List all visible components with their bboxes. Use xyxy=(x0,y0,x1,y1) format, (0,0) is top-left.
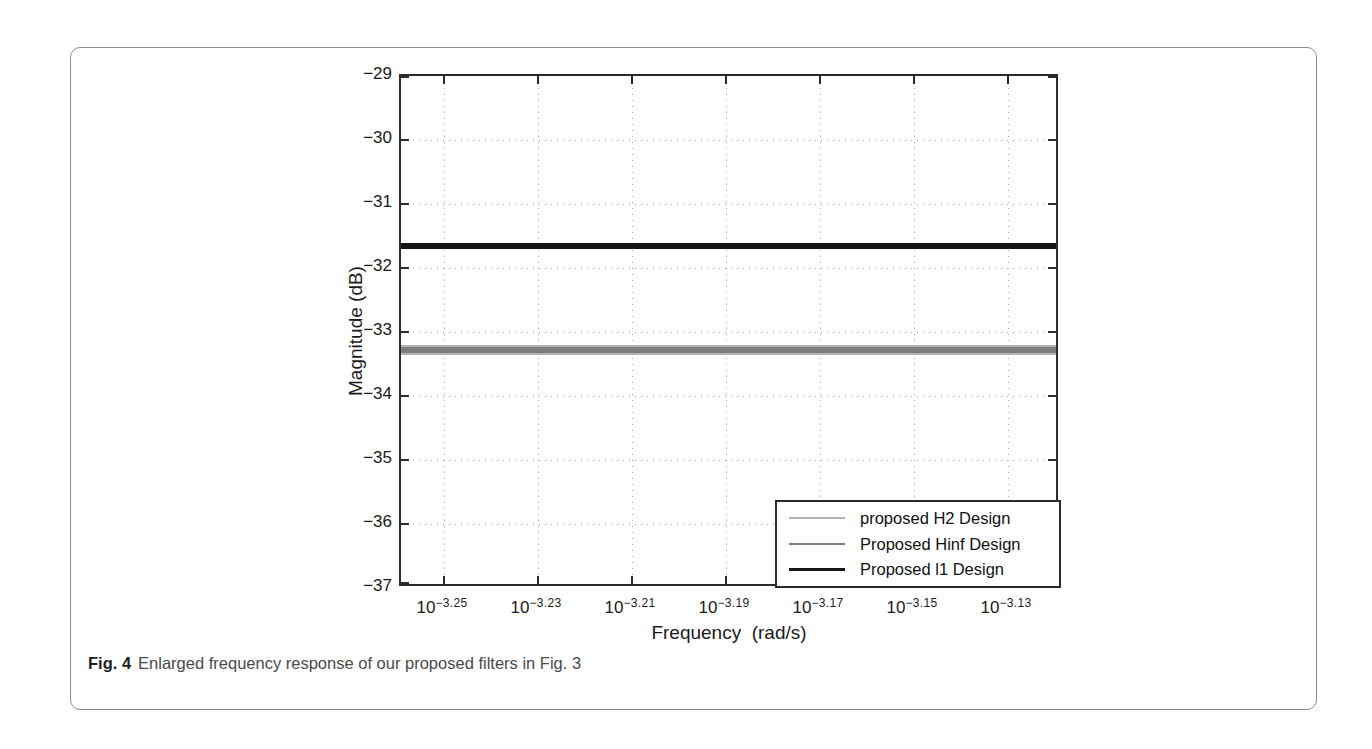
x-tick-mark xyxy=(537,576,539,584)
legend-label: Proposed Hinf Design xyxy=(860,535,1021,554)
x-tick-label: 10−3.13 xyxy=(959,596,1053,618)
legend-line-sample-hinf xyxy=(789,543,845,546)
y-tick-mark xyxy=(401,139,409,141)
x-tick-label: 10−3.23 xyxy=(489,596,583,618)
caption-figure-number: Fig. 4 xyxy=(88,654,131,672)
y-tick-mark xyxy=(1048,395,1056,397)
gridline-horizontal xyxy=(401,268,1056,269)
y-tick-label: −29 xyxy=(332,63,392,85)
y-tick-mark xyxy=(1048,267,1056,269)
y-tick-mark xyxy=(1048,139,1056,141)
y-tick-mark xyxy=(401,459,409,461)
x-axis-title: Frequency (rad/s) xyxy=(599,622,859,644)
y-tick-mark xyxy=(401,267,409,269)
x-tick-mark xyxy=(631,576,633,584)
x-tick-base: 10 xyxy=(605,598,624,617)
x-tick-exponent: −3.13 xyxy=(1000,596,1032,610)
x-tick-mark xyxy=(725,76,727,84)
y-tick-mark xyxy=(1048,459,1056,461)
x-tick-exponent: −3.21 xyxy=(624,596,656,610)
y-tick-mark xyxy=(1048,76,1056,78)
y-tick-mark xyxy=(401,582,409,584)
x-tick-exponent: −3.15 xyxy=(906,596,938,610)
gridline-horizontal xyxy=(401,140,1056,141)
y-tick-label: −32 xyxy=(332,255,392,277)
x-tick-mark xyxy=(725,576,727,584)
x-tick-mark xyxy=(537,76,539,84)
y-tick-label: −36 xyxy=(332,511,392,533)
y-tick-mark xyxy=(401,76,409,78)
figure-caption: Fig. 4Enlarged frequency response of our… xyxy=(88,654,581,673)
series-line-l1 xyxy=(401,243,1056,249)
x-tick-exponent: −3.19 xyxy=(718,596,750,610)
x-tick-base: 10 xyxy=(511,598,530,617)
y-tick-label: −34 xyxy=(332,383,392,405)
legend-label: Proposed l1 Design xyxy=(860,560,1004,579)
x-tick-mark xyxy=(631,76,633,84)
x-tick-exponent: −3.17 xyxy=(812,596,844,610)
legend-item-l1: Proposed l1 Design xyxy=(777,560,1059,579)
legend-label: proposed H2 Design xyxy=(860,509,1010,528)
y-tick-label: −30 xyxy=(332,127,392,149)
gridline-horizontal xyxy=(401,204,1056,205)
caption-text: Enlarged frequency response of our propo… xyxy=(138,654,581,672)
x-tick-mark xyxy=(1007,76,1009,84)
gridline-horizontal xyxy=(401,332,1056,333)
y-tick-mark xyxy=(1048,203,1056,205)
legend-item-hinf: Proposed Hinf Design xyxy=(777,535,1059,554)
y-tick-mark xyxy=(401,395,409,397)
x-tick-mark xyxy=(443,76,445,84)
gridline-vertical xyxy=(538,76,539,584)
gridline-horizontal xyxy=(401,460,1056,461)
x-tick-base: 10 xyxy=(699,598,718,617)
figure-card: Magnitude (dB) xyxy=(70,47,1317,710)
y-tick-mark xyxy=(401,203,409,205)
y-tick-mark xyxy=(401,523,409,525)
x-tick-exponent: −3.23 xyxy=(530,596,562,610)
x-tick-mark xyxy=(913,76,915,84)
legend-line-sample-l1 xyxy=(789,568,845,571)
legend-line-sample-h2 xyxy=(789,517,845,519)
x-tick-base: 10 xyxy=(417,598,436,617)
y-tick-mark xyxy=(401,331,409,333)
x-tick-label: 10−3.25 xyxy=(395,596,489,618)
x-tick-label: 10−3.15 xyxy=(865,596,959,618)
x-tick-base: 10 xyxy=(793,598,812,617)
y-tick-label: −31 xyxy=(332,191,392,213)
page: Magnitude (dB) xyxy=(0,0,1372,749)
legend-item-h2: proposed H2 Design xyxy=(777,509,1059,528)
legend: proposed H2 Design Proposed Hinf Design … xyxy=(775,500,1061,588)
y-tick-label: −37 xyxy=(332,575,392,597)
plot-axes: proposed H2 Design Proposed Hinf Design … xyxy=(399,74,1058,586)
x-tick-label: 10−3.19 xyxy=(677,596,771,618)
y-tick-mark xyxy=(1048,331,1056,333)
x-tick-base: 10 xyxy=(887,598,906,617)
gridline-vertical xyxy=(726,76,727,584)
x-tick-label: 10−3.21 xyxy=(583,596,677,618)
x-tick-base: 10 xyxy=(981,598,1000,617)
x-tick-label: 10−3.17 xyxy=(771,596,865,618)
x-tick-mark xyxy=(443,576,445,584)
gridline-vertical xyxy=(632,76,633,584)
gridline-vertical xyxy=(444,76,445,584)
y-tick-label: −33 xyxy=(332,319,392,341)
y-tick-label: −35 xyxy=(332,447,392,469)
x-tick-exponent: −3.25 xyxy=(436,596,468,610)
series-line-hinf xyxy=(401,347,1056,353)
gridline-horizontal xyxy=(401,396,1056,397)
x-tick-mark xyxy=(819,76,821,84)
